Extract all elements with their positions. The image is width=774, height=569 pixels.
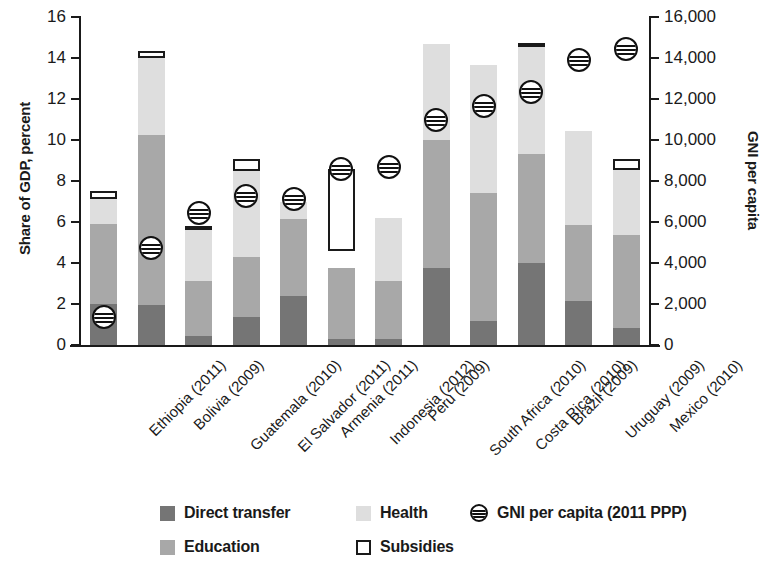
bar-group[interactable] (185, 17, 212, 345)
bar-group[interactable] (138, 17, 165, 345)
bar-segment-transfer[interactable] (280, 296, 307, 345)
gni-marker-line (519, 88, 543, 90)
gni-per-capita-marker (329, 157, 353, 181)
bar-segment-transfer[interactable] (565, 301, 592, 345)
y-axis-left-tick-label: 14 (6, 49, 66, 66)
bar-group[interactable] (423, 17, 450, 345)
gni-marker-line (472, 106, 496, 108)
bar-segment-education[interactable] (518, 154, 545, 263)
y-axis-left-tick (71, 344, 80, 346)
bar-segment-transfer[interactable] (470, 321, 497, 345)
bar-segment-education[interactable] (565, 225, 592, 301)
y-axis-right-tick (650, 57, 659, 59)
y-axis-right-tick (650, 16, 659, 18)
gni-marker-line (377, 171, 401, 173)
bar-segment-health[interactable] (185, 230, 212, 281)
bar-segment-education[interactable] (613, 235, 640, 327)
gni-marker-line (424, 124, 448, 126)
bar-segment-subsidies[interactable] (185, 226, 212, 230)
y-axis-right-tick (650, 303, 659, 305)
bar-segment-subsidies[interactable] (138, 51, 165, 58)
bar-group[interactable] (613, 17, 640, 345)
bar-segment-health[interactable] (565, 131, 592, 225)
legend-label: Direct transfer (184, 504, 290, 522)
gni-marker-line (282, 199, 306, 201)
legend-gni-line (470, 516, 488, 518)
bar-segment-transfer[interactable] (423, 268, 450, 345)
bar-group[interactable] (90, 17, 117, 345)
bar-segment-education[interactable] (470, 193, 497, 321)
y-axis-right-tick (650, 98, 659, 100)
bar-segment-transfer[interactable] (518, 263, 545, 345)
gni-marker-line (282, 203, 306, 205)
legend-item[interactable]: Direct transfer (160, 504, 290, 522)
bar-segment-education[interactable] (233, 257, 260, 317)
gni-marker-line (329, 169, 353, 171)
bar-segment-education[interactable] (280, 219, 307, 296)
bar-group[interactable] (470, 17, 497, 345)
y-axis-left-tick-label: 12 (6, 90, 66, 107)
y-axis-left-tick-label: 0 (6, 336, 66, 353)
bar-group[interactable] (518, 17, 545, 345)
y-axis-left-tick-label: 4 (6, 254, 66, 271)
bar-segment-transfer[interactable] (328, 339, 355, 345)
bar-group[interactable] (233, 17, 260, 345)
gni-per-capita-marker (567, 48, 591, 72)
bar-segment-transfer[interactable] (233, 317, 260, 345)
legend-item[interactable]: Subsidies (356, 538, 454, 556)
gni-per-capita-marker (519, 80, 543, 104)
chart-legend: Direct transferHealthGNI per capita (201… (160, 500, 774, 562)
legend-gni-line (470, 513, 488, 515)
legend-gni-line (470, 510, 488, 512)
bar-segment-health[interactable] (138, 58, 165, 135)
gni-per-capita-marker (92, 305, 116, 329)
gni-marker-line (234, 196, 258, 198)
bar-segment-education[interactable] (328, 268, 355, 339)
bar-segment-transfer[interactable] (613, 328, 640, 345)
y-axis-left-tick-label: 8 (6, 172, 66, 189)
y-axis-right-tick-label: 16,000 (664, 8, 744, 25)
gni-marker-line (614, 53, 638, 55)
bar-group[interactable] (280, 17, 307, 345)
bar-segment-health[interactable] (375, 218, 402, 282)
bar-segment-education[interactable] (423, 140, 450, 268)
gni-per-capita-marker (377, 155, 401, 179)
gni-marker-line (567, 64, 591, 66)
bar-segment-health[interactable] (90, 199, 117, 224)
bar-group[interactable] (375, 17, 402, 345)
bar-segment-health[interactable] (613, 159, 640, 235)
gni-marker-line (377, 163, 401, 165)
legend-item[interactable]: Education (160, 538, 260, 556)
y-axis-right-tick-label: 12,000 (664, 90, 744, 107)
gni-marker-line (139, 248, 163, 250)
gni-marker-line (567, 60, 591, 62)
legend-label: Health (380, 504, 428, 522)
bar-segment-transfer[interactable] (185, 336, 212, 345)
legend-swatch-transfer-icon (160, 506, 175, 521)
bar-segment-subsidies[interactable] (233, 159, 260, 170)
gni-marker-line (614, 49, 638, 51)
y-axis-left-tick (71, 98, 80, 100)
bar-segment-health[interactable] (470, 65, 497, 193)
bar-segment-education[interactable] (138, 135, 165, 305)
legend-item[interactable]: Health (356, 504, 428, 522)
bar-segment-subsidies[interactable] (613, 159, 640, 169)
bar-segment-education[interactable] (185, 281, 212, 335)
bar-segment-education[interactable] (90, 224, 117, 304)
bar-segment-education[interactable] (375, 281, 402, 338)
gni-per-capita-marker (614, 37, 638, 61)
bar-segment-transfer[interactable] (375, 339, 402, 345)
bar-segment-transfer[interactable] (138, 305, 165, 345)
gni-marker-line (519, 92, 543, 94)
legend-swatch-gni-icon (470, 504, 488, 522)
bar-segment-subsidies[interactable] (518, 43, 545, 47)
legend-item[interactable]: GNI per capita (2011 PPP) (470, 504, 687, 522)
bar-segment-subsidies[interactable] (90, 191, 117, 199)
gni-per-capita-marker (187, 201, 211, 225)
legend-label: Education (184, 538, 260, 556)
y-axis-left-tick (71, 139, 80, 141)
y-axis-left-tick-label: 6 (6, 213, 66, 230)
y-axis-left-tick-label: 16 (6, 8, 66, 25)
bar-segment-subsidies[interactable] (328, 169, 355, 251)
gni-marker-line (139, 244, 163, 246)
